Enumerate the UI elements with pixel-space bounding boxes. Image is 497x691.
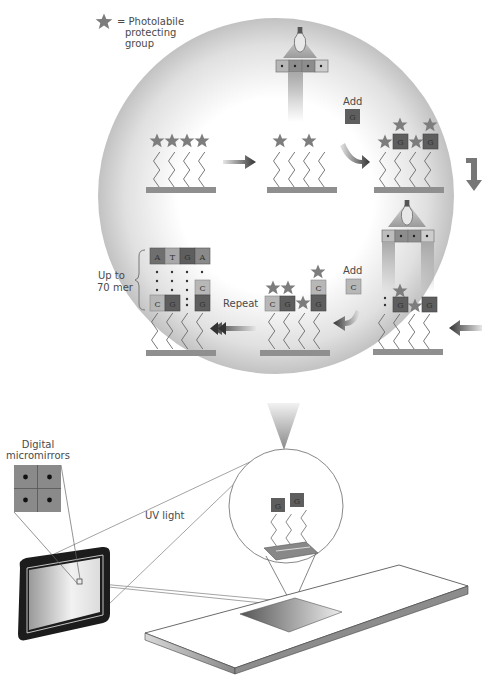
substrate-bar: [146, 187, 216, 193]
add-c-label: Add: [343, 265, 362, 277]
svg-text:G: G: [184, 253, 190, 262]
svg-text:G: G: [315, 300, 321, 309]
svg-text:A: A: [154, 253, 161, 262]
svg-text:G: G: [284, 300, 290, 309]
arrow-left-icon: [449, 320, 482, 336]
svg-text:G: G: [169, 300, 175, 309]
svg-text:T: T: [170, 253, 176, 262]
micromirror-device: [18, 547, 110, 641]
down-arrow-icon: [466, 158, 482, 191]
uv-light-label: UV light: [145, 510, 185, 522]
svg-text:G: G: [427, 138, 433, 147]
repeat-label: Repeat: [223, 298, 258, 310]
zoom-funnel: [267, 403, 300, 450]
svg-text:C: C: [154, 300, 160, 309]
svg-text:G: G: [294, 497, 300, 506]
diagram-canvas: G G G: [0, 0, 497, 691]
svg-text:G: G: [349, 113, 355, 122]
svg-text:G: G: [397, 138, 403, 147]
svg-text:C: C: [350, 283, 356, 292]
svg-text:C: C: [269, 300, 275, 309]
star-icon: [96, 13, 113, 28]
svg-text:G: G: [199, 300, 205, 309]
glass-slide: [145, 565, 468, 674]
mask-row: [276, 60, 328, 72]
micromirrors-line2: micromirrors: [0, 450, 76, 462]
svg-text:C: C: [315, 284, 321, 293]
legend-line3: group: [125, 38, 154, 50]
svg-text:C: C: [199, 284, 205, 293]
length-line1: Up to: [98, 270, 125, 282]
add-g-label: Add: [343, 96, 362, 108]
length-line2: 70 mer: [97, 282, 133, 294]
svg-text:G: G: [275, 502, 281, 511]
svg-text:G: G: [397, 301, 403, 310]
svg-text:A: A: [199, 253, 206, 262]
svg-text:G: G: [426, 301, 432, 310]
